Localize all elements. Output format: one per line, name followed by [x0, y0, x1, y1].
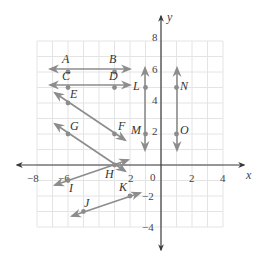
- point-label-L: L: [132, 79, 140, 93]
- x-tick-label: −8: [27, 172, 39, 184]
- point-label-B: B: [109, 52, 117, 66]
- point-label-F: F: [117, 119, 126, 133]
- x-tick-label: 4: [220, 172, 226, 184]
- point-labels: A B C D E F G H I J K L M N O: [61, 52, 189, 210]
- point-label-G: G: [70, 119, 79, 133]
- y-axis-label: y: [166, 10, 173, 24]
- point-L: [143, 85, 148, 90]
- point-label-E: E: [69, 87, 78, 101]
- point-label-K: K: [118, 180, 128, 194]
- point-label-H: H: [104, 167, 115, 181]
- y-tick-label: 2: [152, 125, 158, 137]
- point-label-M: M: [130, 123, 142, 137]
- point-K: [128, 194, 133, 199]
- point-F: [112, 132, 117, 137]
- point-label-A: A: [61, 52, 70, 66]
- point-O: [174, 132, 179, 137]
- point-label-C: C: [62, 69, 71, 83]
- point-label-I: I: [68, 181, 74, 195]
- point-label-J: J: [84, 196, 90, 210]
- y-tick-label: 4: [152, 94, 158, 106]
- y-tick-label: −2: [142, 190, 154, 202]
- point-label-D: D: [108, 69, 118, 83]
- y-tick-label: 6: [152, 63, 158, 75]
- point-N: [174, 85, 179, 90]
- point-E: [66, 101, 71, 106]
- point-label-O: O: [180, 123, 189, 137]
- x-axis-label: x: [245, 168, 252, 182]
- point-M: [143, 132, 148, 137]
- y-tick-label: −4: [142, 221, 154, 233]
- point-label-N: N: [179, 79, 189, 93]
- origin-label: 0: [150, 171, 156, 183]
- x-tick-label: 2: [189, 172, 195, 184]
- point-D: [112, 85, 117, 90]
- x-tick-label: 2: [128, 172, 134, 184]
- coordinate-plane: x y 0 −8 −6 2 2 4 8 6 4 2 −2 −4 A B C D …: [0, 0, 266, 260]
- y-tick-label: 8: [152, 31, 158, 43]
